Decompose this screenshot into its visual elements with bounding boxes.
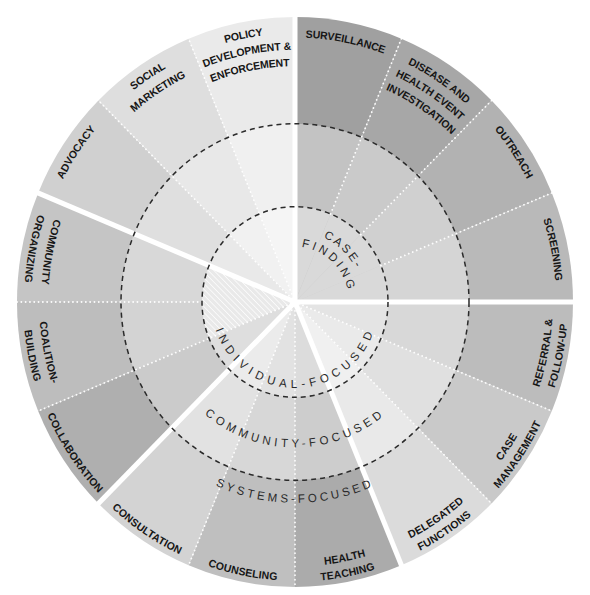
intervention-wheel: INDIVIDUAL-FOCUSED COMMUNITY-FOCUSED SYS… [0, 0, 590, 595]
